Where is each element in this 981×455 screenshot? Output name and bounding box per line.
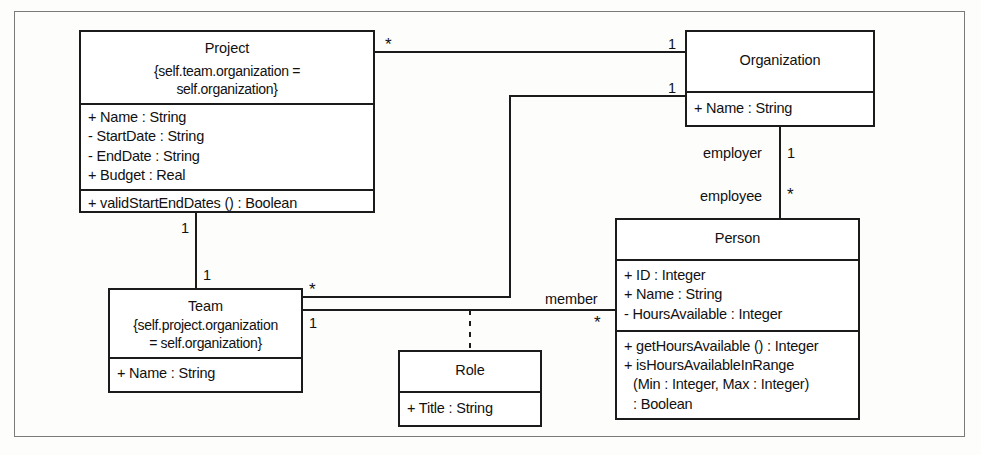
class-project-attributes: + Name : String - StartDate : String - E… — [81, 103, 373, 189]
class-person-name: Person — [715, 229, 760, 248]
attribute: - HoursAvailable : Integer — [624, 305, 851, 324]
attribute: + Title : String — [407, 399, 533, 418]
class-person-operations: + getHoursAvailable () : Integer + isHou… — [617, 330, 858, 418]
attribute: + ID : Integer — [624, 266, 851, 285]
operation: + getHoursAvailable () : Integer — [624, 337, 851, 356]
multiplicity-project-team-bottom: 1 — [203, 268, 211, 283]
class-organization-header: Organization — [687, 32, 873, 91]
attribute: + Name : String — [694, 99, 866, 118]
multiplicity-project-end: * — [385, 36, 392, 53]
association-label-member: member — [545, 292, 598, 307]
operation: + isHoursAvailableInRange — [624, 356, 851, 375]
operation-return-type: : Boolean — [624, 395, 851, 414]
class-role[interactable]: Role + Title : String — [398, 350, 542, 427]
attribute: + Name : String — [88, 108, 366, 127]
class-role-header: Role — [400, 352, 540, 391]
multiplicity-organization-end: 1 — [668, 37, 676, 52]
attribute: + Budget : Real — [88, 166, 366, 185]
class-project-name: Project — [88, 35, 366, 63]
class-team[interactable]: Team {self.project.organization = self.o… — [108, 288, 303, 393]
class-project-operations: + validStartEndDates () : Boolean — [81, 189, 373, 217]
class-organization-name: Organization — [739, 51, 820, 70]
class-role-name: Role — [455, 361, 484, 380]
class-person-attributes: + ID : Integer + Name : String - HoursAv… — [617, 259, 858, 330]
class-team-header: Team {self.project.organization = self.o… — [110, 290, 301, 357]
class-person[interactable]: Person + ID : Integer + Name : String - … — [615, 218, 860, 420]
class-project-constraint-line-1: {self.team.organization = — [88, 63, 366, 81]
attribute: - StartDate : String — [88, 127, 366, 146]
operation-parameters: (Min : Integer, Max : Integer) — [624, 375, 851, 394]
attribute: + Name : String — [624, 285, 851, 304]
multiplicity-team-organization-end: * — [309, 281, 316, 298]
attribute: - EndDate : String — [88, 147, 366, 166]
class-person-header: Person — [617, 220, 858, 259]
class-organization[interactable]: Organization + Name : String — [685, 30, 875, 127]
class-organization-attributes: + Name : String — [687, 91, 873, 125]
attribute: + Name : String — [117, 364, 294, 383]
multiplicity-project-team-top: 1 — [181, 221, 189, 236]
class-project-constraint-line-2: self.organization} — [88, 81, 366, 99]
multiplicity-employer: 1 — [787, 146, 795, 161]
multiplicity-organization-team-end: 1 — [668, 81, 676, 96]
multiplicity-employee: * — [787, 186, 794, 203]
operation: + validStartEndDates () : Boolean — [88, 194, 366, 213]
class-team-name: Team — [117, 293, 294, 317]
class-team-attributes: + Name : String — [110, 357, 301, 387]
class-role-attributes: + Title : String — [400, 391, 540, 425]
multiplicity-team-member-end: 1 — [309, 316, 317, 331]
role-name-employer: employer — [703, 146, 762, 161]
class-project[interactable]: Project {self.team.organization = self.o… — [79, 30, 375, 213]
class-team-constraint-line-1: {self.project.organization — [117, 317, 294, 335]
multiplicity-person-member-end: * — [594, 314, 601, 331]
role-name-employee: employee — [700, 189, 762, 204]
class-project-header: Project {self.team.organization = self.o… — [81, 32, 373, 103]
uml-class-diagram: Project {self.team.organization = self.o… — [0, 0, 981, 455]
class-team-constraint-line-2: = self.organization} — [117, 335, 294, 353]
